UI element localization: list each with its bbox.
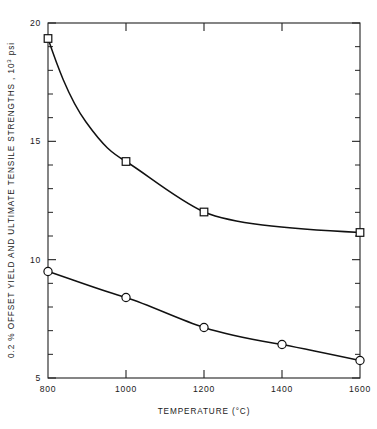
x-tick-label-1200: 1200 [193, 384, 215, 394]
y-tick-label-10: 10 [30, 255, 41, 265]
x-tick-label-1600: 1600 [349, 384, 371, 394]
y-axis-title: 0.2 % OFFSET YIELD AND ULTIMATE TENSILE … [6, 42, 16, 358]
y-axis-title-unit: psi [7, 42, 16, 58]
x-tick-label-800: 800 [40, 384, 56, 394]
x-tick-label-1000: 1000 [115, 384, 137, 394]
svg-text:0.2 % OFFSET YIELD AND ULTIMAT: 0.2 % OFFSET YIELD AND ULTIMATE TENSILE … [6, 42, 16, 358]
y-tick-label-15: 15 [30, 136, 41, 146]
x-tick-label-1400: 1400 [271, 384, 293, 394]
x-axis-title: TEMPERATURE (°C) [158, 407, 251, 416]
y-tick-label-20: 20 [30, 18, 41, 28]
y-axis-title-main: 0.2 % OFFSET YIELD AND ULTIMATE TENSILE … [7, 63, 16, 358]
chart-plot-svg: 20 15 10 5 800 1000 1200 1400 1600 TEMPE… [0, 0, 377, 429]
y-tick-label-5: 5 [36, 373, 41, 383]
chart-figure: 20 15 10 5 800 1000 1200 1400 1600 TEMPE… [0, 0, 377, 429]
